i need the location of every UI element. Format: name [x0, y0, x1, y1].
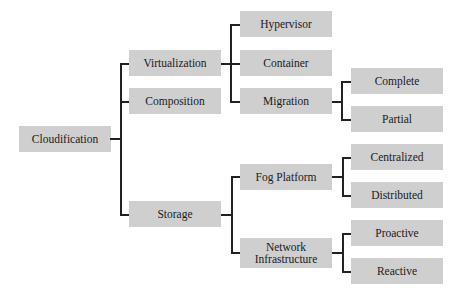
node-label: Partial: [382, 113, 412, 125]
node-label: Migration: [263, 95, 309, 107]
node-label: Cloudification: [32, 133, 98, 145]
node-label: Storage: [157, 208, 192, 220]
connector: [341, 81, 343, 120]
connector: [342, 233, 344, 272]
connector: [110, 138, 120, 140]
node-label: Composition: [145, 95, 204, 107]
connector: [231, 176, 240, 178]
node-label: Proactive: [375, 227, 418, 239]
node-composition: Composition: [129, 88, 221, 114]
node-centralized: Centralized: [351, 144, 443, 170]
connector: [341, 81, 351, 83]
node-partial: Partial: [351, 106, 443, 132]
node-complete: Complete: [351, 68, 443, 94]
connector: [120, 63, 122, 215]
node-container: Container: [240, 50, 332, 76]
node-network-infrastructure: Network Infrastructure: [240, 238, 332, 268]
node-storage: Storage: [129, 201, 221, 227]
node-fog-platform: Fog Platform: [240, 164, 332, 190]
connector: [332, 252, 342, 254]
connector: [332, 176, 342, 178]
node-migration: Migration: [240, 88, 332, 114]
connector: [342, 157, 351, 159]
node-reactive: Reactive: [351, 258, 443, 284]
node-label: Reactive: [377, 265, 417, 277]
node-cloudification: Cloudification: [19, 126, 111, 152]
connector: [341, 119, 351, 121]
node-label: Virtualization: [143, 57, 206, 69]
node-label: Hypervisor: [260, 18, 312, 30]
node-label: Fog Platform: [255, 171, 316, 183]
connector: [221, 214, 231, 216]
node-label: Distributed: [371, 189, 423, 201]
node-virtualization: Virtualization: [129, 50, 221, 76]
connector: [230, 24, 232, 102]
connector: [342, 195, 351, 197]
node-label: Container: [263, 57, 308, 69]
connector: [120, 63, 129, 65]
connector: [120, 214, 129, 216]
connector: [231, 252, 240, 254]
connector: [342, 233, 351, 235]
node-label: Centralized: [370, 151, 423, 163]
connector: [230, 101, 240, 103]
node-label: Complete: [375, 75, 420, 87]
connector: [342, 157, 344, 196]
connector: [230, 24, 240, 26]
node-distributed: Distributed: [351, 182, 443, 208]
connector: [342, 271, 351, 273]
node-hypervisor: Hypervisor: [240, 11, 332, 37]
node-proactive: Proactive: [351, 220, 443, 246]
node-label-line2: Infrastructure: [255, 253, 318, 265]
node-label-line1: Network: [266, 241, 306, 253]
connector: [120, 101, 129, 103]
connector: [231, 176, 233, 253]
